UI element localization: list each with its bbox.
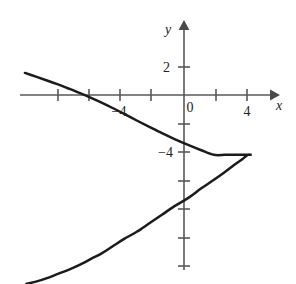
origin-label: 0 xyxy=(187,100,194,115)
x-tick-label-4: 4 xyxy=(244,104,251,119)
x-axis-label: x xyxy=(275,98,283,113)
y-axis-arrow-icon xyxy=(179,20,190,30)
y-tick-label--4: −4 xyxy=(158,145,173,160)
y-tick-label-2: 2 xyxy=(163,60,170,75)
coordinate-plane: y x 0 −4 4 2 −4 xyxy=(0,0,296,284)
y-axis-label: y xyxy=(163,22,172,37)
graph-figure: y x 0 −4 4 2 −4 xyxy=(0,0,296,284)
x-tick-label--4: −4 xyxy=(112,104,127,119)
parabola-curve xyxy=(25,73,252,284)
